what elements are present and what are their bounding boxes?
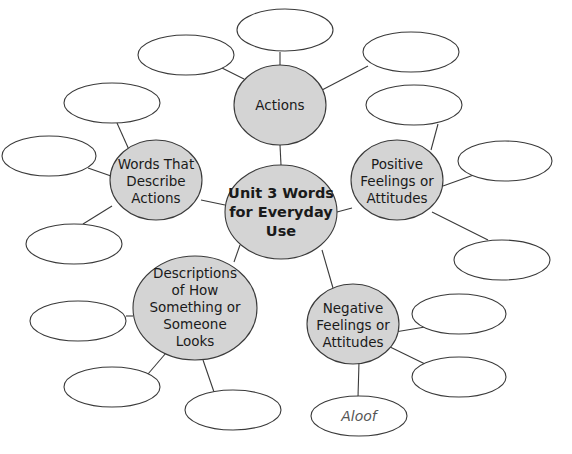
center-line-3: Use	[228, 222, 334, 241]
actions-line-1: Actions	[255, 97, 304, 114]
answer-oval-actions-3[interactable]	[363, 32, 459, 72]
answer-oval-positive-1[interactable]	[366, 85, 462, 125]
answer-oval-descriptions-3[interactable]	[185, 390, 281, 430]
actions-label: Actions	[255, 97, 304, 114]
positive-line-3: Attitudes	[360, 190, 433, 207]
words-describe-actions-label: Words That Describe Actions	[118, 156, 194, 207]
descriptions-line-3: Something or	[149, 299, 240, 316]
answer-oval-actions-2[interactable]	[237, 9, 333, 51]
answer-oval-positive-2[interactable]	[458, 141, 552, 181]
answer-oval-negative-2[interactable]	[412, 357, 506, 397]
center-topic-label: Unit 3 Words for Everyday Use	[228, 184, 334, 241]
negative-line-1: Negative	[316, 300, 389, 317]
answer-oval-actions-1[interactable]	[138, 35, 234, 75]
descriptions-line-1: Descriptions	[149, 265, 240, 282]
negative-line-2: Feelings or	[316, 317, 389, 334]
answer-oval-words-describe-3[interactable]	[26, 224, 122, 264]
words-describe-line-2: Describe	[118, 173, 194, 190]
answer-oval-words-describe-1[interactable]	[64, 83, 160, 123]
positive-feelings-label: Positive Feelings or Attitudes	[360, 156, 433, 207]
answer-aloof: Aloof	[341, 408, 377, 425]
answer-oval-negative-1[interactable]	[412, 294, 506, 334]
negative-line-3: Attitudes	[316, 334, 389, 351]
descriptions-line-5: Looks	[149, 333, 240, 350]
descriptions-line-2: of How	[149, 282, 240, 299]
positive-line-2: Feelings or	[360, 173, 433, 190]
descriptions-label: Descriptions of How Something or Someone…	[149, 265, 240, 350]
descriptions-line-4: Someone	[149, 316, 240, 333]
answer-oval-words-describe-2[interactable]	[2, 136, 96, 176]
words-describe-line-3: Actions	[118, 190, 194, 207]
answer-oval-positive-3[interactable]	[454, 240, 550, 280]
center-line-2: for Everyday	[228, 203, 334, 222]
center-line-1: Unit 3 Words	[228, 184, 334, 203]
negative-feelings-label: Negative Feelings or Attitudes	[316, 300, 389, 351]
words-describe-line-1: Words That	[118, 156, 194, 173]
answer-oval-descriptions-1[interactable]	[30, 301, 126, 341]
positive-line-1: Positive	[360, 156, 433, 173]
answer-oval-descriptions-2[interactable]	[64, 367, 160, 407]
